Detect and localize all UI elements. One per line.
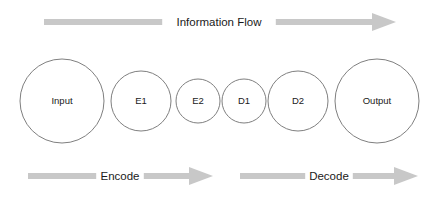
encode-arrow-label: Encode xyxy=(100,170,139,182)
node-d1[interactable]: D1 xyxy=(222,79,266,123)
diagram-canvas: Information Flow InputE1E2D1D2Output Enc… xyxy=(0,0,438,198)
node-input[interactable]: Input xyxy=(20,59,104,143)
node-e2[interactable]: E2 xyxy=(176,79,220,123)
node-e2-label: E2 xyxy=(192,95,204,106)
encode-arrow-head xyxy=(189,167,213,185)
node-d1-label: D1 xyxy=(238,95,250,106)
diagram-svg: Information Flow InputE1E2D1D2Output Enc… xyxy=(0,0,438,198)
node-output[interactable]: Output xyxy=(335,59,419,143)
node-d2-label: D2 xyxy=(292,95,304,106)
information-flow-arrow: Information Flow xyxy=(44,13,396,31)
decode-arrow-head xyxy=(394,167,418,185)
node-d2[interactable]: D2 xyxy=(268,71,328,131)
phase-arrow-group: EncodeDecode xyxy=(28,167,418,185)
information-flow-arrow-head xyxy=(372,13,396,31)
information-flow-arrow-label: Information Flow xyxy=(176,16,262,28)
node-input-label: Input xyxy=(51,95,72,106)
node-output-label: Output xyxy=(363,95,392,106)
decode-arrow-label: Decode xyxy=(309,170,349,182)
node-e1-label: E1 xyxy=(135,95,147,106)
node-e1[interactable]: E1 xyxy=(111,71,171,131)
node-group: InputE1E2D1D2Output xyxy=(20,59,419,143)
